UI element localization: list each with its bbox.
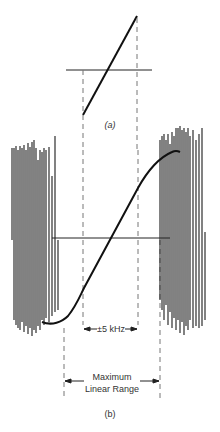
figure-b-label: (b) <box>102 409 118 420</box>
left-noise-burst <box>12 136 58 336</box>
figure-b-s-curve <box>42 151 180 324</box>
diagram-canvas <box>0 0 220 432</box>
figure-a-label: (a) <box>102 120 118 131</box>
figure-a-linear-response <box>83 16 137 115</box>
outer-range-label-line1: Maximum <box>82 372 142 383</box>
outer-range-label-line2: Linear Range <box>82 384 142 395</box>
inner-range-label: ±5 kHz <box>96 324 126 335</box>
right-noise-burst <box>160 126 205 335</box>
